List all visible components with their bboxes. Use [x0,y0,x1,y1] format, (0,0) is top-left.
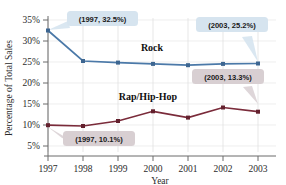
y-tick-label-35: 35% [23,15,41,25]
annotation-rock-1997: (1997, 32.5%) [48,11,138,30]
x-tick-label-1999: 1999 [109,164,128,174]
y-tick-label-10: 10% [23,120,41,130]
annotation-rap-2003: (2003, 13.3%) [192,69,264,104]
music-sales-line-chart: 35% 30% 25% 20% 15% 10% 5% 1997 1998 199… [0,0,286,185]
x-axis-title: Year [151,176,169,185]
x-tick-label-2003: 2003 [249,164,268,174]
series-label-rock: Rock [141,42,164,53]
y-axis-title: Percentage of Total Sales [4,40,14,136]
annotation-rock-2003-text: (2003, 25.2%) [208,21,256,30]
x-tick-label-1997: 1997 [39,164,58,174]
annotation-rap-1997-text: (1997, 10.1%) [75,135,123,144]
annotation-rap-1997: (1997, 10.1%) [48,127,135,146]
y-tick-label-15: 15% [23,99,41,109]
x-tick-label-2000: 2000 [144,164,163,174]
x-tick-label-1998: 1998 [74,164,93,174]
y-tick-label-30: 30% [23,36,41,46]
x-tick-label-2002: 2002 [214,164,233,174]
annotation-rap-2003-text: (2003, 13.3%) [204,73,252,82]
annotation-rock-1997-text: (1997, 32.5%) [79,15,127,24]
y-tick-label-25: 25% [23,57,41,67]
y-tick-label-5: 5% [27,141,40,151]
chart-svg: 35% 30% 25% 20% 15% 10% 5% 1997 1998 199… [0,0,286,185]
x-axis-ticks [48,156,258,161]
annotation-rock-2003: (2003, 25.2%) [196,17,268,62]
x-tick-label-2001: 2001 [179,164,198,174]
y-tick-label-20: 20% [23,78,41,88]
series-label-rap-hip-hop: Rap/Hip-Hop [119,91,178,102]
